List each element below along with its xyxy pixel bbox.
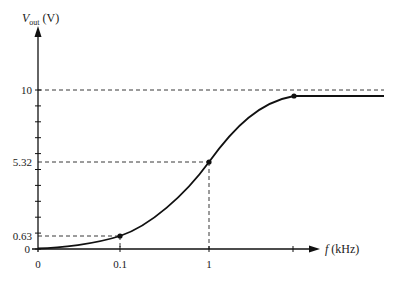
y-axis-title: Vout (V) [22,11,59,27]
point-1khz [206,159,211,164]
y-tick-label-5.32: 5.32 [13,156,32,168]
point-10khz [291,93,296,98]
x-tick-label-1: 1 [206,258,212,270]
x-axis-title-unit: (kHz) [328,242,359,256]
x-tick-label-0.1: 0.1 [113,258,127,270]
y-axis-title-unit: (V) [40,11,60,25]
x-axis-arrow-icon [309,246,320,253]
y-tick-label-10: 10 [21,84,33,96]
y-tick-label-0: 0 [25,243,31,255]
x-tick-label-0: 0 [35,258,41,270]
y-tick-label-0.63: 0.63 [13,230,33,242]
point-0.1khz [117,233,122,238]
chart: 10 5.32 0.63 0 0 0.1 1 Vout (V) f (kHz) [0,0,393,281]
reference-lines [38,90,384,249]
vout-curve [38,96,384,249]
x-axis-title: f (kHz) [325,242,359,256]
y-axis-arrow-icon [35,26,42,37]
